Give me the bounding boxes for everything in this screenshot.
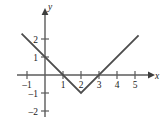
x-tick-label-3: 3 bbox=[97, 80, 102, 90]
x-tick-label-5: 5 bbox=[133, 80, 138, 90]
x-tick-label-4: 4 bbox=[115, 80, 120, 90]
x-tick-label-2: 2 bbox=[79, 80, 84, 90]
y-tick-label--2: –2 bbox=[28, 107, 39, 117]
x-axis-group bbox=[17, 71, 155, 79]
graph-figure: –1 1 2 3 4 5 2 1 –1 –2 x y bbox=[0, 0, 165, 126]
x-tick-labels: –1 1 2 3 4 5 bbox=[21, 80, 137, 90]
x-axis-label: x bbox=[154, 71, 160, 81]
y-tick-label-2: 2 bbox=[33, 35, 38, 45]
y-axis-group bbox=[41, 8, 49, 117]
y-tick-label--1: –1 bbox=[28, 89, 39, 99]
y-tick-label-1: 1 bbox=[33, 53, 38, 63]
x-tick-label-1: 1 bbox=[61, 80, 66, 90]
y-axis-label: y bbox=[47, 2, 53, 12]
coordinate-plane: –1 1 2 3 4 5 2 1 –1 –2 x y bbox=[0, 0, 165, 126]
